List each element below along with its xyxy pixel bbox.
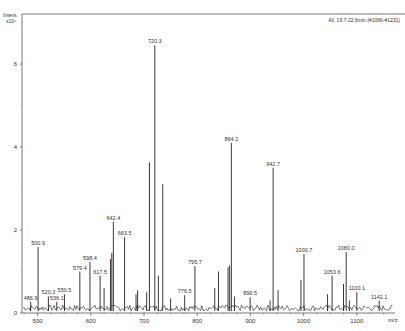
y-axis-scale-label: x10⁶ [6,18,16,24]
x-tick-label: 600 [86,318,97,324]
peak-label: 776.5 [178,288,192,294]
spectrum-header: All, 19.7-22.6min (#1066-#1231) [328,17,400,23]
peak-label: 500.9 [31,240,45,246]
y-tick-label: 6 [14,61,18,67]
peak-label: 486.9 [24,295,38,301]
mass-spectrum-chart: Intens. x10⁶ All, 19.7-22.6min (#1066-#1… [0,0,405,331]
x-tick-label: 800 [192,318,203,324]
peak-label: 795.7 [188,259,202,265]
peak-label: 642.4 [106,215,120,221]
peak-label: 720.3 [148,38,162,44]
y-tick-label: 0 [14,310,18,316]
x-axis-title: m/z [388,317,398,323]
peak-label: 1080.0 [338,245,355,251]
x-tick-label: 500 [33,318,44,324]
peak-label: 550.5 [58,287,72,293]
y-tick-label: 4 [14,144,18,150]
peak-label: 598.4 [83,255,97,261]
x-tick-label: 1100 [350,318,364,324]
peak-label: 663.5 [118,230,132,236]
peak-label: 1000.7 [296,247,313,253]
peak-label: 617.5 [93,269,107,275]
x-tick-label: 900 [245,318,256,324]
peak-label: 864.2 [224,136,238,142]
x-tick-label: 700 [139,318,150,324]
peak-label: 899.5 [243,290,257,296]
peak-label: 1053.6 [324,269,341,275]
peak-label: 1142.1 [371,294,387,300]
peak-label: 1100.1 [349,285,365,291]
y-tick-label: 2 [14,227,18,233]
peak-label: 942.7 [266,161,280,167]
peak-label: 579.4 [73,265,87,271]
noise-baseline [23,305,393,311]
peak-label: 536.1 [50,295,64,301]
x-tick-label: 1000 [297,318,311,324]
